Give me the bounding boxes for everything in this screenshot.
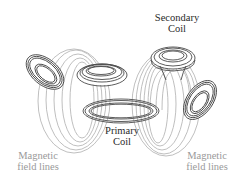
receiver-coil-center-left [77,63,127,86]
primary-coil [83,99,159,123]
field-lines-right-label-line2: field lines [177,161,237,172]
primary-coil-label-line2: Coil [96,136,148,147]
primary-coil-label: Primary Coil [96,125,148,147]
field-lines-left-label-line2: field lines [8,161,68,172]
secondary-coil-label-line1: Secondary [145,12,209,23]
field-lines-left-label-line1: Magnetic [8,150,68,161]
secondary-coil-label-line2: Coil [145,23,209,34]
secondary-coil [151,47,195,80]
field-lines-right-label-line1: Magnetic [177,150,237,161]
secondary-coil-label: Secondary Coil [145,12,209,34]
field-lines-left-label: Magnetic field lines [8,150,68,172]
primary-coil-label-line1: Primary [96,125,148,136]
field-lines-right-label: Magnetic field lines [177,150,237,172]
